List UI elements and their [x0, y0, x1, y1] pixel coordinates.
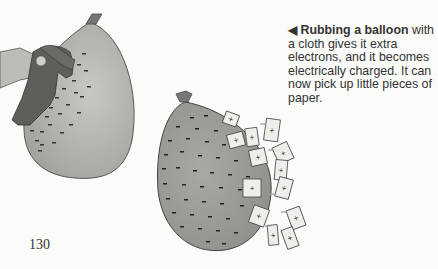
caption-title: Rubbing a balloon [300, 23, 408, 37]
caption-arrow: ◀ [288, 23, 297, 37]
svg-text:+: + [250, 184, 255, 193]
right-balloon [157, 91, 271, 251]
page-number: 130 [29, 237, 50, 253]
caption: ◀ Rubbing a balloon with a cloth gives i… [288, 24, 438, 106]
